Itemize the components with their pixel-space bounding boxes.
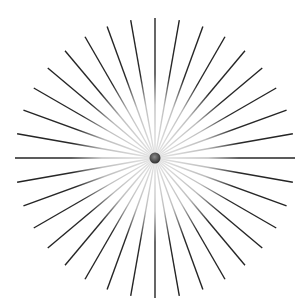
center-dot — [150, 153, 161, 164]
starburst-figure — [0, 0, 308, 308]
